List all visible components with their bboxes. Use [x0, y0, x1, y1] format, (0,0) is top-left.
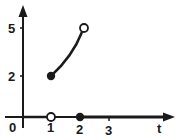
y-label-5: 5 — [8, 21, 15, 36]
x-label-3: 3 — [105, 123, 112, 138]
origin-label: 0 — [9, 120, 16, 135]
x-axis-label-t: t — [157, 121, 162, 136]
closed-dot-1-2 — [47, 72, 55, 80]
open-dot-1-0 — [47, 113, 55, 121]
curve-piece2 — [51, 32, 82, 76]
y-axis-arrow-icon — [19, 5, 28, 17]
x-label-1: 1 — [47, 120, 54, 135]
y-label-2: 2 — [8, 69, 15, 84]
closed-dot-2-0 — [76, 113, 84, 121]
open-dot-2-5 — [80, 24, 88, 32]
piecewise-function-plot: 5 2 0 1 2 3 t — [0, 0, 186, 138]
x-label-2: 2 — [76, 122, 83, 137]
